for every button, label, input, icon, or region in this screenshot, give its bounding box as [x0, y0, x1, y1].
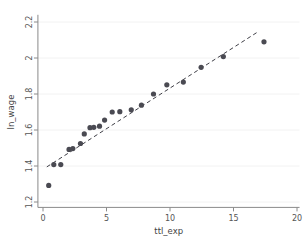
data-point	[129, 107, 134, 112]
plot-canvas: 1.21.41.61.822.2 05101520 ln_wage ttl_ex…	[0, 0, 306, 242]
x-tick-label: 0	[40, 214, 45, 223]
data-point	[46, 183, 51, 188]
data-point	[199, 65, 204, 70]
x-axis-title: ttl_exp	[154, 226, 183, 236]
data-point	[139, 103, 144, 108]
data-point	[261, 39, 266, 44]
data-point	[102, 118, 107, 123]
y-tick-label: 2.2	[25, 16, 34, 29]
y-tick-label: 1.6	[25, 124, 34, 137]
data-point	[91, 125, 96, 130]
y-tick-label: 1.4	[25, 160, 34, 173]
data-point	[151, 91, 156, 96]
data-point	[181, 80, 186, 85]
x-tick-label: 5	[104, 214, 109, 223]
data-point	[110, 109, 115, 114]
data-point	[97, 124, 102, 129]
data-point	[51, 162, 56, 167]
x-tick-label: 20	[292, 214, 302, 223]
plot-background	[0, 0, 306, 242]
data-point	[70, 146, 75, 151]
y-tick-label: 1.8	[25, 88, 34, 101]
data-point	[117, 109, 122, 114]
data-point	[82, 131, 87, 136]
data-point	[164, 82, 169, 87]
x-tick-label: 10	[165, 214, 175, 223]
data-point	[221, 54, 226, 59]
data-point	[58, 162, 63, 167]
y-tick-label: 1.2	[25, 196, 34, 209]
scatter-plot-figure: 1.21.41.61.822.2 05101520 ln_wage ttl_ex…	[0, 0, 306, 242]
data-point	[78, 141, 83, 146]
y-tick-label: 2	[25, 55, 34, 60]
x-tick-label: 15	[228, 214, 238, 223]
y-axis-title: ln_wage	[6, 95, 16, 130]
